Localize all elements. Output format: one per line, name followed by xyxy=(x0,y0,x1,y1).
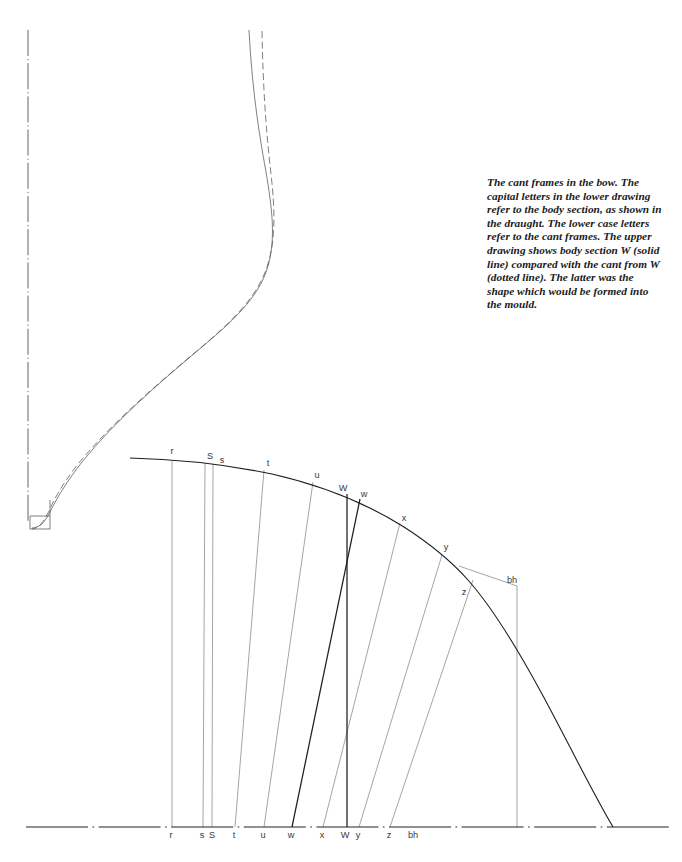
frame-line-t xyxy=(235,470,264,827)
baseline-label-r: r xyxy=(169,830,172,840)
curve-label-w: w xyxy=(360,489,368,499)
curve-label-s: s xyxy=(220,455,225,465)
frame-line-S xyxy=(212,464,213,827)
technical-drawing-canvas: r S s t u W w x y z bh r s S t u w x W y… xyxy=(0,0,682,862)
curve-label-y: y xyxy=(444,542,449,552)
baseline-label-s: s xyxy=(200,830,205,840)
baseline-label-y: y xyxy=(356,830,361,840)
baseline-label-w: w xyxy=(287,830,295,840)
frame-line-y xyxy=(359,555,442,827)
upper-drawing-group xyxy=(28,30,274,529)
curve-label-x: x xyxy=(402,513,407,523)
lower-drawing-group: r S s t u W w x y z bh r s S t u w x W y… xyxy=(26,446,670,840)
frame-line-u xyxy=(264,482,313,827)
baseline-label-u: u xyxy=(260,830,265,840)
frame-line-z xyxy=(390,580,473,827)
frame-line-w xyxy=(292,499,360,827)
baseline-label-z: z xyxy=(387,830,392,840)
baseline-label-t: t xyxy=(233,830,236,840)
baseline-label-x: x xyxy=(320,830,325,840)
hull-outline-curve xyxy=(130,458,613,827)
curve-label-W: W xyxy=(339,483,348,493)
baseline-label-bh: bh xyxy=(408,830,418,840)
curve-label-r: r xyxy=(170,446,173,456)
curve-label-z: z xyxy=(462,587,467,597)
curve-label-t: t xyxy=(267,458,270,468)
figure-caption: The cant frames in the bow. The capital … xyxy=(487,176,663,312)
baseline-label-S: S xyxy=(209,830,215,840)
body-section-w-solid-curve xyxy=(32,30,272,528)
figure-page: r S s t u W w x y z bh r s S t u w x W y… xyxy=(0,0,682,862)
curve-label-S: S xyxy=(207,451,213,461)
cant-frame-w-dashed-curve xyxy=(32,31,274,529)
curve-label-bh: bh xyxy=(507,575,517,585)
curve-label-u: u xyxy=(314,470,319,480)
baseline-label-W: W xyxy=(341,830,350,840)
frame-line-x xyxy=(323,523,400,827)
frame-line-s xyxy=(203,463,205,827)
